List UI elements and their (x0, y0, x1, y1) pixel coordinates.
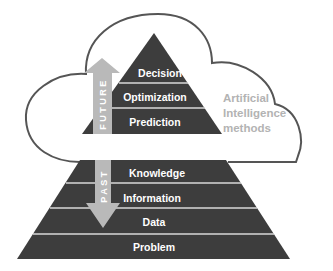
level-label-decision: Decision (138, 67, 182, 79)
ai-methods-label-line-1: Artificial (223, 92, 269, 104)
level-label-knowledge: Knowledge (129, 167, 185, 179)
level-label-optimization: Optimization (123, 91, 187, 103)
ai-methods-label-line-3: methods (223, 122, 271, 134)
level-label-data: Data (143, 216, 166, 228)
level-label-information: Information (123, 192, 181, 204)
level-label-prediction: Prediction (129, 116, 180, 128)
future-arrow-label: FUTURE (98, 78, 108, 130)
ai-pyramid-diagram: Decision Optimization Prediction Knowled… (0, 0, 333, 271)
past-arrow-label: PAST (99, 169, 109, 202)
level-label-problem: Problem (133, 241, 175, 253)
ai-methods-label-line-2: Intelligence (223, 107, 286, 119)
